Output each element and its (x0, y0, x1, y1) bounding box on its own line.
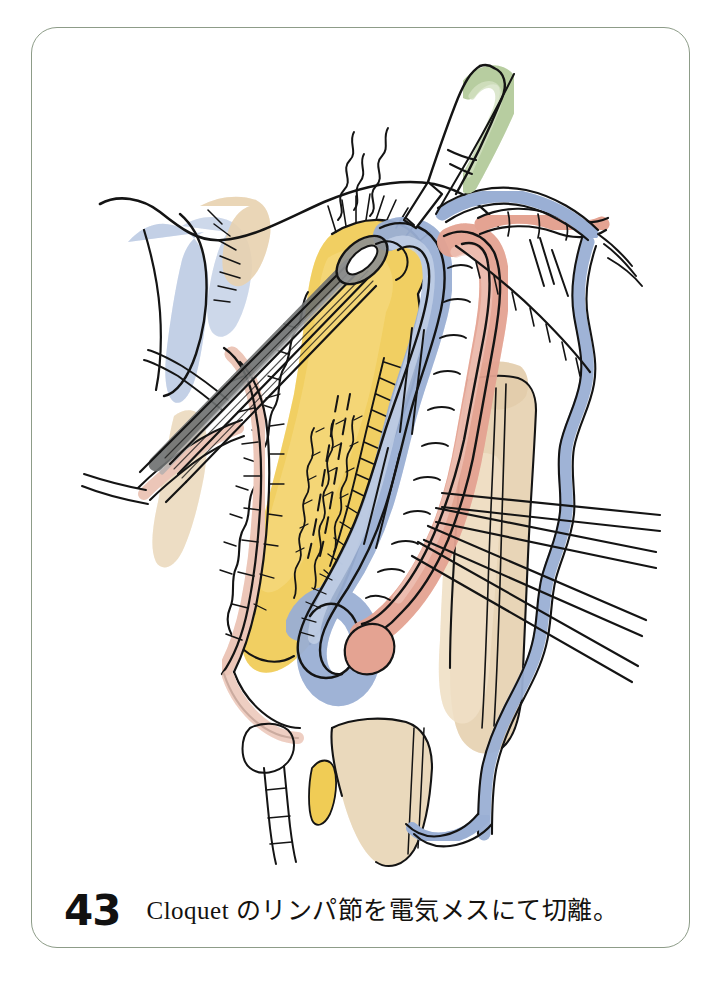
illustration-area (32, 28, 691, 873)
figure-number: 43 (64, 890, 120, 932)
figure-caption-row: 43 Cloquet のリンパ節を電気メスにて切離。 (32, 873, 691, 949)
figure-caption-text: Cloquet のリンパ節を電気メスにて切離。 (146, 896, 618, 926)
surgical-illustration (32, 28, 691, 873)
figure-card: 43 Cloquet のリンパ節を電気メスにて切離。 (31, 27, 690, 948)
page-root: 43 Cloquet のリンパ節を電気メスにて切離。 (0, 0, 720, 986)
